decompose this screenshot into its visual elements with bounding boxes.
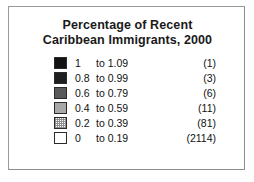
legend-figure: Percentage of Recent Caribbean Immigrant… xyxy=(0,0,254,182)
legend-range-label: 0.2 to 0.39 xyxy=(75,117,128,129)
legend-range-label: 0 to 0.19 xyxy=(75,132,128,144)
legend-range-label: 0.8 to 0.99 xyxy=(75,72,128,84)
legend-range-low: 0.4 xyxy=(75,102,96,114)
legend-range-high: 0.79 xyxy=(108,87,128,99)
legend-count: (2114) xyxy=(186,132,216,144)
legend-range-low: 0.8 xyxy=(75,72,96,84)
legend-swatch-icon xyxy=(54,102,67,114)
legend-range-low: 0 xyxy=(75,132,96,144)
legend-range-low: 0.6 xyxy=(75,87,96,99)
legend-title-line-2: Caribbean Immigrants, 2000 xyxy=(9,33,246,48)
legend-swatch-icon xyxy=(54,87,67,99)
legend-row: 1 to 1.09 (1) xyxy=(54,55,244,70)
legend-title-line-1: Percentage of Recent xyxy=(9,18,246,33)
legend-row: 0.6 to 0.79 (6) xyxy=(54,85,244,100)
legend-count: (3) xyxy=(203,72,216,84)
legend-title: Percentage of Recent Caribbean Immigrant… xyxy=(9,18,246,48)
legend-range-to: to xyxy=(96,57,108,69)
legend-range-high: 0.99 xyxy=(108,72,128,84)
legend-row: 0.4 to 0.59 (11) xyxy=(54,100,244,115)
legend-row: 0.8 to 0.99 (3) xyxy=(54,70,244,85)
legend-range-high: 1.09 xyxy=(108,57,128,69)
legend-swatch-icon xyxy=(54,57,67,69)
legend-frame: Percentage of Recent Caribbean Immigrant… xyxy=(8,6,245,170)
legend-count: (6) xyxy=(203,87,216,99)
legend-range-label: 0.6 to 0.79 xyxy=(75,87,128,99)
legend-range-to: to xyxy=(96,87,108,99)
legend-swatch-icon xyxy=(54,132,67,144)
legend-count: (11) xyxy=(198,102,216,114)
legend-row: 0 to 0.19 (2114) xyxy=(54,130,244,145)
legend-range-high: 0.19 xyxy=(108,132,128,144)
legend-class-list: 1 to 1.09 (1) 0.8 to 0.99 (3) 0.6 xyxy=(54,55,244,145)
legend-range-label: 1 to 1.09 xyxy=(75,57,128,69)
legend-range-high: 0.59 xyxy=(108,102,128,114)
legend-range-to: to xyxy=(96,117,108,129)
legend-range-low: 0.2 xyxy=(75,117,96,129)
legend-range-low: 1 xyxy=(75,57,96,69)
legend-swatch-icon xyxy=(54,72,67,84)
legend-range-to: to xyxy=(96,72,108,84)
legend-range-to: to xyxy=(96,132,108,144)
legend-count: (81) xyxy=(197,117,216,129)
legend-range-to: to xyxy=(96,102,108,114)
legend-count: (1) xyxy=(203,57,216,69)
legend-range-high: 0.39 xyxy=(108,117,128,129)
legend-row: 0.2 to 0.39 (81) xyxy=(54,115,244,130)
legend-swatch-icon xyxy=(54,117,67,129)
legend-range-label: 0.4 to 0.59 xyxy=(75,102,128,114)
